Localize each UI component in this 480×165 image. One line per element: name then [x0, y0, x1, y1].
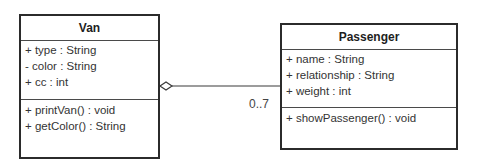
attribute: + weight : int: [286, 83, 456, 99]
attributes-section: + name : String + relationship : String …: [282, 49, 456, 107]
attributes-section: + type : String - color : String + cc : …: [21, 40, 158, 99]
multiplicity-label: 0..7: [249, 97, 269, 111]
class-van[interactable]: Van + type : String - color : String + c…: [19, 14, 160, 159]
aggregation-diamond-icon: [160, 82, 172, 90]
operations-section: + showPassenger() : void: [282, 107, 456, 126]
attribute: + name : String: [286, 51, 456, 67]
class-name: Passenger: [282, 25, 456, 49]
operation: + showPassenger() : void: [286, 110, 456, 126]
operation: + getColor() : String: [25, 118, 158, 134]
attribute: + relationship : String: [286, 67, 456, 83]
class-name: Van: [21, 16, 158, 40]
operations-section: + printVan() : void + getColor() : Strin…: [21, 99, 158, 134]
operation: + printVan() : void: [25, 102, 158, 118]
attribute: + type : String: [25, 42, 158, 58]
attribute: - color : String: [25, 58, 158, 74]
class-passenger[interactable]: Passenger + name : String + relationship…: [280, 23, 458, 150]
attribute: + cc : int: [25, 74, 158, 90]
